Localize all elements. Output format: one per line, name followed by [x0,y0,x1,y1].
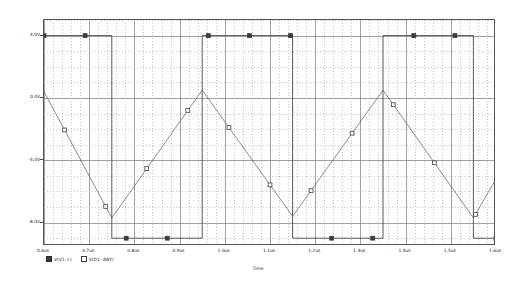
y-tick-label: 0.0V [0,94,40,99]
y-tick-mark [40,159,43,160]
y-tick-mark [40,35,43,36]
x-axis-title: Time [0,266,516,271]
x-tick-label: 0.9us [173,248,185,253]
waveform-viewer-window: 4.0V0.0V-4.0V-8.0V 0.6us0.7us0.8us0.9us1… [0,0,516,285]
plot-area[interactable] [43,19,495,245]
x-tick-label: 1.1us [263,248,275,253]
x-tick-label: 1.2us [308,248,320,253]
y-tick-label: -4.0V [0,157,40,162]
x-tick-label: 1.4us [399,248,411,253]
legend-label: V(D1:-ANY) [89,257,114,262]
plot-canvas [44,20,494,244]
legend-label: V(V1:+) [54,257,72,262]
x-tick-label: 1.0us [218,248,230,253]
y-tick-label: -8.0V [0,219,40,224]
x-tick-label: 0.7us [82,248,94,253]
legend-entry[interactable]: V(D1:-ANY) [81,256,114,262]
legend[interactable]: V(V1:+)V(D1:-ANY) [46,256,114,262]
x-tick-label: 1.6us [489,248,501,253]
x-tick-label: 0.6us [37,248,49,253]
legend-entry[interactable]: V(V1:+) [46,256,72,262]
x-tick-label: 0.8us [127,248,139,253]
y-tick-label: 4.0V [0,32,40,37]
y-tick-mark [40,97,43,98]
hollow-square-icon [81,256,87,262]
filled-square-icon [46,256,52,262]
x-tick-label: 1.5us [444,248,456,253]
x-tick-label: 1.3us [353,248,365,253]
trace-layer [44,20,494,244]
y-tick-mark [40,222,43,223]
